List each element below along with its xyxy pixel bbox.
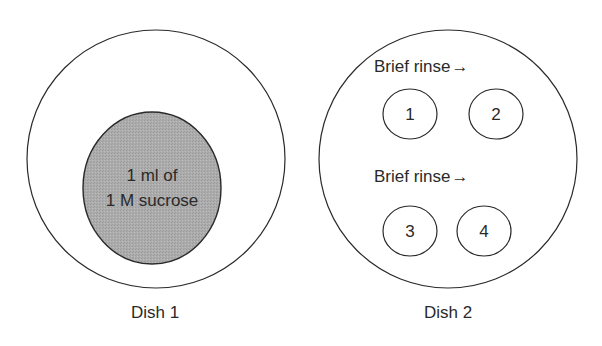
rinse-label-bottom: Brief rinse→: [374, 167, 469, 186]
well-2-label: 2: [491, 105, 500, 124]
well-4-label: 4: [479, 222, 488, 241]
dish-1-label: Dish 1: [131, 303, 179, 322]
rinse-label-top: Brief rinse→: [374, 57, 469, 76]
dish-2-label: Dish 2: [424, 303, 472, 322]
well-1-label: 1: [405, 105, 414, 124]
dish-2: Brief rinse→ 1 2 Brief rinse→ 3 4 Dish 2: [319, 30, 577, 322]
diagram-canvas: 1 ml of 1 M sucrose Dish 1 Brief rinse→ …: [0, 0, 602, 346]
sucrose-label-line1: 1 ml of: [126, 166, 177, 185]
sucrose-label-line2: 1 M sucrose: [106, 191, 199, 210]
rinse-text-top: Brief rinse: [374, 57, 451, 76]
well-3-label: 3: [405, 222, 414, 241]
diagram-svg: 1 ml of 1 M sucrose Dish 1 Brief rinse→ …: [0, 0, 602, 346]
arrow-right-icon: →: [452, 57, 469, 76]
sucrose-drop: [83, 112, 221, 264]
rinse-text-bottom: Brief rinse: [374, 167, 451, 186]
dish-1: 1 ml of 1 M sucrose Dish 1: [27, 30, 285, 322]
arrow-right-icon: →: [452, 167, 469, 186]
